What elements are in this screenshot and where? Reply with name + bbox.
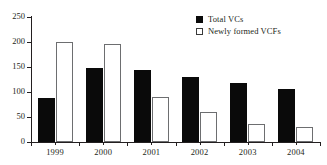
x-axis-minor-tick [55,142,56,145]
x-axis-label-2000: 2000 [83,147,123,157]
x-axis-tick [31,142,32,146]
x-axis-label-2002: 2002 [180,147,220,157]
open-square-icon [196,28,203,35]
y-axis-tick [27,92,31,93]
bar-newly-formed-vcfs-2002 [200,112,217,142]
y-axis-tick [27,117,31,118]
chart-legend: Total VCsNewly formed VCFs [196,13,281,37]
x-axis-tick [224,142,225,146]
x-axis-minor-tick [151,142,152,145]
bar-newly-formed-vcfs-2004 [296,127,313,142]
bar-newly-formed-vcfs-2003 [248,124,265,142]
x-axis-tick [176,142,177,146]
bar-newly-formed-vcfs-2000 [104,44,121,142]
y-axis-tick-label: 200 [0,36,25,46]
x-axis-minor-tick [200,142,201,145]
legend-item-newly-formed-vcfs: Newly formed VCFs [196,25,281,37]
legend-item-label: Total VCs [208,14,243,24]
x-axis-minor-tick [296,142,297,145]
y-axis-tick-label: 0 [0,136,25,146]
x-axis-label-1999: 1999 [35,147,75,157]
bar-total-vcs-2001 [134,70,151,143]
bar-chart: 050100150200250 199920002001200220032004… [0,0,327,165]
legend-item-label: Newly formed VCFs [208,26,281,36]
x-axis-tick [272,142,273,146]
bar-total-vcs-2002 [182,77,199,142]
y-axis-tick [27,67,31,68]
legend-item-total-vcs: Total VCs [196,13,281,25]
x-axis-label-2004: 2004 [276,147,316,157]
x-axis-tick [127,142,128,146]
bar-total-vcs-2000 [86,68,103,142]
y-axis-tick-label: 250 [0,11,25,21]
y-axis-tick [27,42,31,43]
x-axis-label-2003: 2003 [228,147,268,157]
x-axis-minor-tick [248,142,249,145]
y-axis-tick-label: 50 [0,111,25,121]
bar-newly-formed-vcfs-1999 [56,42,73,142]
x-axis-tick [320,142,321,146]
x-axis-label-2001: 2001 [131,147,171,157]
y-axis-tick [27,17,31,18]
y-axis-tick-label: 100 [0,86,25,96]
bar-total-vcs-2003 [230,83,247,142]
x-axis-minor-tick [103,142,104,145]
y-axis-tick-label: 150 [0,61,25,71]
bar-total-vcs-1999 [38,98,55,142]
bar-total-vcs-2004 [278,89,295,142]
bar-newly-formed-vcfs-2001 [152,97,169,143]
filled-square-icon [196,16,203,23]
x-axis-tick [79,142,80,146]
